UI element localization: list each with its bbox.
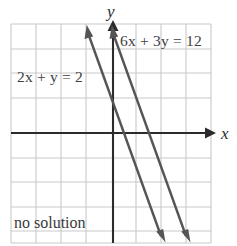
conclusion-label: no solution <box>14 215 86 231</box>
graph-figure: y x 6x + 3y = 12 2x + y = 2 no solution <box>0 0 237 246</box>
x-axis-label: x <box>221 125 229 142</box>
equation-label-6x-3y-12: 6x + 3y = 12 <box>120 33 202 49</box>
equation-label-2x-y-2: 2x + y = 2 <box>17 69 83 85</box>
y-axis <box>108 20 119 243</box>
y-axis-label: y <box>107 3 115 20</box>
